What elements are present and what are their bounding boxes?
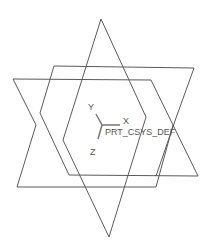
z-axis-label: Z bbox=[90, 147, 96, 157]
x-axis-label: X bbox=[123, 116, 129, 126]
graphics-viewport[interactable]: Y X Z PRT_CSYS_DEF bbox=[0, 0, 210, 251]
datum-plane-front-left-edge bbox=[40, 66, 198, 176]
model-canvas[interactable]: Y X Z PRT_CSYS_DEF bbox=[0, 0, 210, 251]
csys-name-label: PRT_CSYS_DEF bbox=[105, 127, 176, 137]
y-axis-label: Y bbox=[88, 102, 94, 112]
z-axis-icon bbox=[98, 125, 102, 139]
csys-marker[interactable]: Y X Z PRT_CSYS_DEF bbox=[88, 102, 176, 157]
y-axis-icon bbox=[96, 114, 102, 125]
